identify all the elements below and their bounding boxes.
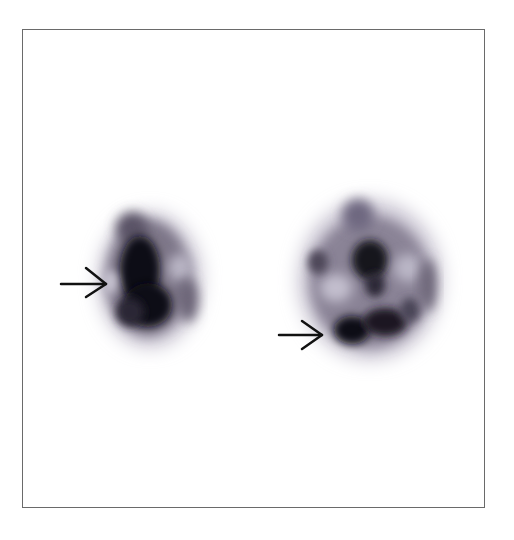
scan-image <box>0 0 514 540</box>
left-uptake-region <box>98 212 202 348</box>
